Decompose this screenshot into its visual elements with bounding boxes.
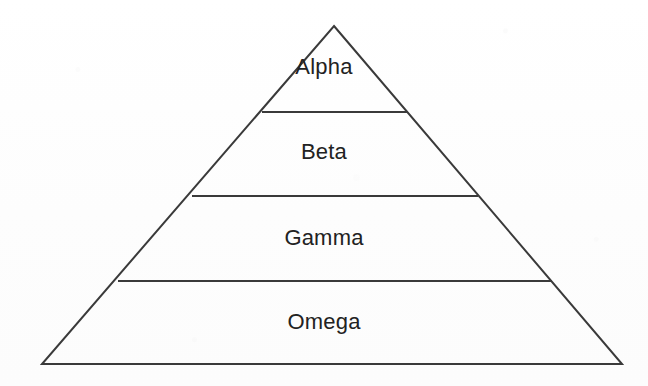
- tier-label-omega: Omega: [0, 311, 648, 333]
- tier-label-alpha: Alpha: [0, 56, 648, 78]
- tier-label-gamma: Gamma: [0, 227, 648, 249]
- tier-label-beta: Beta: [0, 141, 648, 163]
- pyramid-diagram-canvas: Alpha Beta Gamma Omega: [0, 0, 648, 386]
